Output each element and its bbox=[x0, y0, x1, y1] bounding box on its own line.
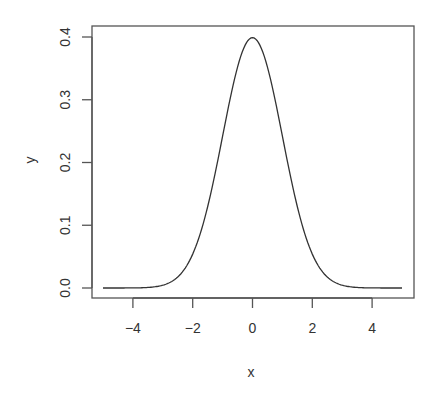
chart-background bbox=[0, 0, 427, 395]
x-tick-label: −2 bbox=[185, 320, 201, 336]
y-tick-label: 0.0 bbox=[57, 278, 73, 298]
y-tick-label: 0.3 bbox=[57, 90, 73, 110]
x-tick-label: 0 bbox=[249, 320, 257, 336]
x-tick-label: 2 bbox=[308, 320, 316, 336]
y-axis-label: y bbox=[22, 157, 38, 164]
y-tick-label: 0.4 bbox=[57, 27, 73, 47]
x-axis-label: x bbox=[248, 364, 255, 380]
x-tick-label: 4 bbox=[368, 320, 376, 336]
y-tick-label: 0.2 bbox=[57, 153, 73, 173]
x-tick-label: −4 bbox=[125, 320, 141, 336]
y-tick-label: 0.1 bbox=[57, 215, 73, 235]
normal-density-chart: −4−2024 0.00.10.20.30.4 x y bbox=[0, 0, 427, 395]
